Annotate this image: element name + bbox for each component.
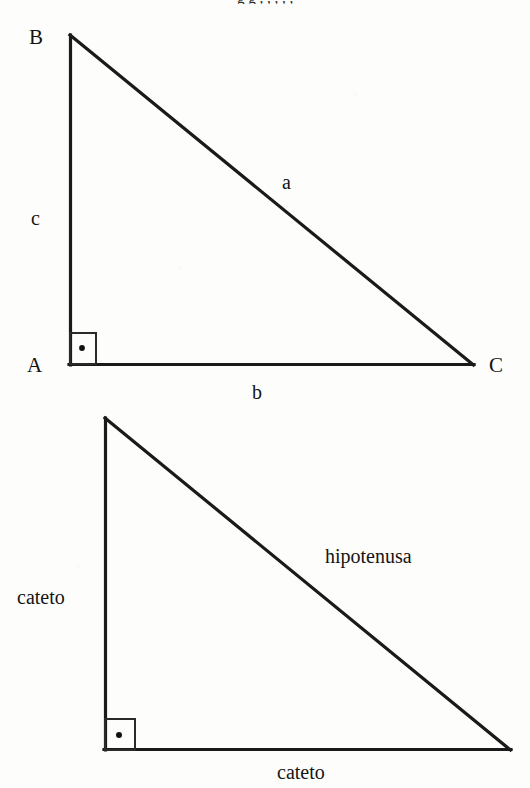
side-label-cateto-vertical: cateto xyxy=(17,587,65,607)
side-label-c: c xyxy=(31,208,40,228)
scanned-figure-page: g g , , , , , xyxy=(0,0,530,788)
figures-canvas xyxy=(0,0,530,788)
right-angle-marker-2 xyxy=(105,719,135,750)
side-label-hipotenusa: hipotenusa xyxy=(325,546,412,566)
vertex-label-c: C xyxy=(489,355,503,376)
right-angle-dot-2 xyxy=(116,732,122,738)
vertex-label-b: B xyxy=(29,27,43,48)
side-label-b: b xyxy=(252,382,262,402)
right-triangle-abc xyxy=(69,35,474,365)
right-angle-marker-a xyxy=(70,333,96,364)
right-angle-dot-a xyxy=(79,345,85,351)
right-triangle-named-sides xyxy=(104,418,511,750)
side-label-a: a xyxy=(282,172,291,192)
triangle-abc-hypotenuse-a xyxy=(70,35,474,365)
side-label-cateto-horizontal: cateto xyxy=(277,762,325,782)
triangle-2-hypotenuse xyxy=(105,418,511,750)
vertex-label-a: A xyxy=(27,355,42,376)
